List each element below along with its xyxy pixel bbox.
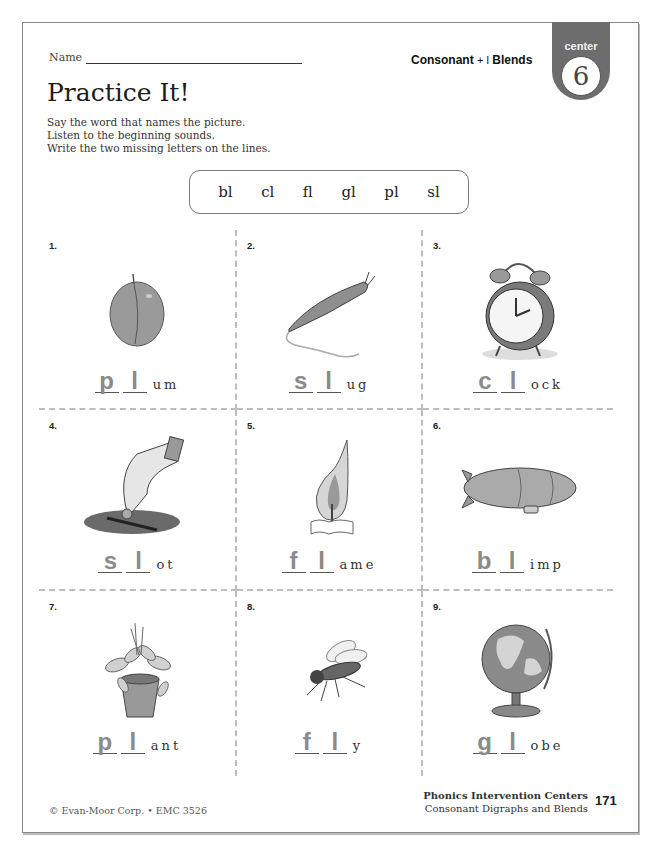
answer-blank-1[interactable]: p bbox=[93, 731, 117, 754]
plant-icon bbox=[77, 615, 197, 725]
name-input-line[interactable] bbox=[86, 53, 302, 64]
answer-blank-1[interactable]: p bbox=[95, 370, 119, 393]
answer-blank-2[interactable]: l bbox=[126, 550, 150, 573]
word-ending: ug bbox=[347, 377, 370, 393]
answer-row: s l ot bbox=[39, 550, 235, 573]
answer-row: b l imp bbox=[423, 550, 613, 573]
answer-row: g l obe bbox=[423, 731, 613, 754]
fly-icon bbox=[269, 615, 389, 725]
globe-icon bbox=[458, 615, 578, 725]
topic-heading: Consonant + l Blends bbox=[411, 53, 532, 67]
name-field-row: Name bbox=[49, 51, 302, 64]
copyright: © Evan-Moor Corp. • EMC 3526 bbox=[49, 805, 207, 816]
clock-icon bbox=[458, 254, 578, 364]
answer-blank-2[interactable]: l bbox=[317, 370, 341, 393]
word-ending: ock bbox=[531, 377, 563, 393]
word-ending: y bbox=[353, 738, 363, 754]
exercise-item: 4. s l ot bbox=[39, 410, 237, 591]
answer-row: p l ant bbox=[39, 731, 235, 754]
word-ending: um bbox=[153, 377, 180, 393]
instructions: Say the word that names the picture. Lis… bbox=[47, 116, 270, 155]
word-bank-item: fl bbox=[303, 183, 313, 201]
item-number: 4. bbox=[49, 420, 57, 431]
answer-row: f l y bbox=[237, 731, 421, 754]
exercise-item: 2. s l ug bbox=[237, 230, 423, 410]
answer-blank-1[interactable]: s bbox=[289, 370, 313, 393]
exercise-item: 7. p l ant bbox=[39, 591, 237, 776]
word-bank-item: cl bbox=[261, 183, 274, 201]
badge-label: center bbox=[552, 40, 610, 52]
exercise-item: 5. f l ame bbox=[237, 410, 423, 591]
word-ending: ot bbox=[156, 557, 175, 573]
answer-blank-1[interactable]: c bbox=[473, 370, 497, 393]
answer-row: s l ug bbox=[237, 370, 421, 393]
item-number: 5. bbox=[247, 420, 255, 431]
item-number: 8. bbox=[247, 601, 255, 612]
answer-blank-1[interactable]: s bbox=[98, 550, 122, 573]
item-number: 9. bbox=[433, 601, 441, 612]
page-title: Practice It! bbox=[47, 78, 189, 107]
answer-blank-1[interactable]: g bbox=[473, 731, 497, 754]
worksheet-page: Name Consonant + l Blends center 6 Pract… bbox=[22, 22, 639, 833]
series-title: Phonics Intervention Centers bbox=[423, 789, 588, 802]
exercise-item: 6. b l imp bbox=[423, 410, 613, 591]
answer-blank-2[interactable]: l bbox=[310, 550, 334, 573]
item-number: 7. bbox=[49, 601, 57, 612]
topic-right: Blends bbox=[492, 53, 532, 67]
plum-icon bbox=[77, 254, 197, 364]
item-number: 1. bbox=[49, 240, 57, 251]
answer-blank-1[interactable]: b bbox=[472, 550, 496, 573]
answer-row: c l ock bbox=[423, 370, 613, 393]
exercise-item: 3. c l ock bbox=[423, 230, 613, 410]
badge-number: 6 bbox=[561, 56, 601, 96]
word-bank-item: gl bbox=[341, 183, 355, 201]
instruction-line: Listen to the beginning sounds. bbox=[47, 129, 270, 142]
word-bank: bl cl fl gl pl sl bbox=[189, 170, 469, 214]
answer-blank-2[interactable]: l bbox=[501, 731, 525, 754]
answer-row: f l ame bbox=[237, 550, 421, 573]
word-ending: imp bbox=[530, 557, 564, 573]
name-label: Name bbox=[49, 51, 82, 64]
answer-row: p l um bbox=[39, 370, 235, 393]
word-ending: obe bbox=[531, 738, 564, 754]
flame-icon bbox=[269, 434, 389, 544]
answer-blank-1[interactable]: f bbox=[282, 550, 306, 573]
word-bank-item: bl bbox=[218, 183, 232, 201]
word-bank-item: sl bbox=[427, 183, 440, 201]
exercise-grid: 1. p l um 2. s l bbox=[39, 230, 613, 776]
answer-blank-2[interactable]: l bbox=[500, 550, 524, 573]
topic-left: Consonant bbox=[411, 53, 474, 67]
answer-blank-1[interactable]: f bbox=[295, 731, 319, 754]
answer-blank-2[interactable]: l bbox=[121, 731, 145, 754]
word-bank-item: pl bbox=[384, 183, 398, 201]
slot-icon bbox=[77, 434, 197, 544]
item-number: 2. bbox=[247, 240, 255, 251]
exercise-item: 1. p l um bbox=[39, 230, 237, 410]
word-ending: ant bbox=[151, 738, 181, 754]
page-number: 171 bbox=[595, 793, 617, 808]
answer-blank-2[interactable]: l bbox=[323, 731, 347, 754]
instruction-line: Say the word that names the picture. bbox=[47, 116, 270, 129]
exercise-item: 9. g l obe bbox=[423, 591, 613, 776]
instruction-line: Write the two missing letters on the lin… bbox=[47, 142, 270, 155]
center-badge: center 6 bbox=[552, 22, 610, 100]
exercise-item: 8. f l y bbox=[237, 591, 423, 776]
blimp-icon bbox=[458, 434, 578, 544]
footer-series: Phonics Intervention Centers Consonant D… bbox=[423, 789, 588, 815]
item-number: 6. bbox=[433, 420, 441, 431]
answer-blank-2[interactable]: l bbox=[123, 370, 147, 393]
answer-blank-2[interactable]: l bbox=[501, 370, 525, 393]
word-ending: ame bbox=[340, 557, 377, 573]
slug-icon bbox=[269, 254, 389, 364]
item-number: 3. bbox=[433, 240, 441, 251]
topic-plus: + l bbox=[477, 54, 489, 66]
series-subtitle: Consonant Digraphs and Blends bbox=[423, 802, 588, 815]
